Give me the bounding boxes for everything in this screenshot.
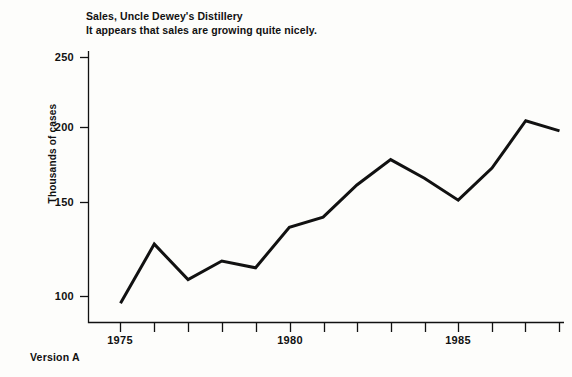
- sales-line-series: [121, 121, 560, 304]
- x-tick-marks: [121, 323, 560, 333]
- chart-page: Sales, Uncle Dewey's Distillery It appea…: [0, 0, 572, 377]
- axis-frame: [89, 51, 565, 323]
- chart-canvas: [0, 0, 572, 377]
- y-tick-marks: [80, 58, 89, 297]
